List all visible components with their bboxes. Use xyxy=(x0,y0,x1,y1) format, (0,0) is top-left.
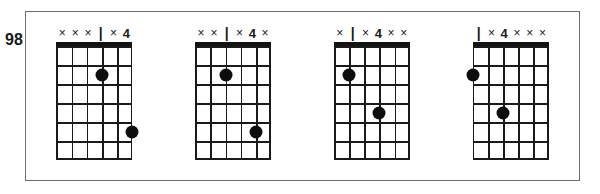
chord-4-marker-1-bar: | xyxy=(473,27,485,40)
chord-3-marker-4-finger: 4 xyxy=(372,27,384,40)
chord-2-marker-1-mute: × xyxy=(195,27,207,40)
chord-1-fret-4 xyxy=(56,122,132,124)
chord-3-marker-1-mute: × xyxy=(334,27,346,40)
chord-2-fret-5 xyxy=(195,141,271,143)
chord-1-marker-6-finger: 4 xyxy=(120,27,132,40)
chord-3-fret-6 xyxy=(334,158,410,160)
chord-1-fret-5 xyxy=(56,141,132,143)
chord-3-fretboard xyxy=(334,42,410,160)
chord-2-grid xyxy=(195,46,271,160)
chord-2-marker-4-mute: × xyxy=(234,27,246,40)
chord-3-dot-1 xyxy=(343,68,356,81)
chord-2-marker-6-mute: × xyxy=(259,27,271,40)
chord-3-fret-0 xyxy=(334,46,410,48)
chord-3-marker-2-bar: | xyxy=(347,27,359,40)
chord-1-markers: ×××|×4 xyxy=(56,25,132,40)
chord-2-marker-5-finger: 4 xyxy=(246,27,258,40)
chord-2-dot-1 xyxy=(219,68,232,81)
chord-2: ××|×4× xyxy=(190,25,276,160)
chord-3-fret-4 xyxy=(334,122,410,124)
chord-4-fret-5 xyxy=(473,141,549,143)
chord-3-grid xyxy=(334,46,410,160)
chord-2-fret-1 xyxy=(195,65,271,67)
chord-1-marker-2-mute: × xyxy=(69,27,81,40)
chord-3-dot-2 xyxy=(373,106,386,119)
chord-3-fret-3 xyxy=(334,103,410,105)
chord-3-marker-3-mute: × xyxy=(359,27,371,40)
chord-2-markers: ××|×4× xyxy=(195,25,271,40)
chord-4: |×4××× xyxy=(468,25,554,160)
chord-diagram-row: ×××|×4××|×4××|×4××|×4××× xyxy=(25,11,580,181)
chord-4-marker-2-mute: × xyxy=(485,27,497,40)
chord-3-fret-2 xyxy=(334,84,410,86)
chord-1-fret-6 xyxy=(56,158,132,160)
chord-3-marker-5-mute: × xyxy=(385,27,397,40)
chord-1-fret-0 xyxy=(56,46,132,48)
chord-2-marker-3-bar: | xyxy=(221,27,233,40)
chord-4-marker-4-mute: × xyxy=(511,27,523,40)
chord-1-marker-1-mute: × xyxy=(56,27,68,40)
chord-1-dot-2 xyxy=(126,125,139,138)
chord-1-dot-1 xyxy=(95,68,108,81)
chord-1-grid xyxy=(56,46,132,160)
chord-4-fret-4 xyxy=(473,122,549,124)
chord-3-fret-5 xyxy=(334,141,410,143)
chord-1-marker-3-mute: × xyxy=(82,27,94,40)
chord-1-marker-4-bar: | xyxy=(95,27,107,40)
chord-3: ×|×4×× xyxy=(329,25,415,160)
chord-1-fret-2 xyxy=(56,84,132,86)
chord-4-fret-0 xyxy=(473,46,549,48)
chord-2-fret-2 xyxy=(195,84,271,86)
chord-2-fret-4 xyxy=(195,122,271,124)
chord-1-marker-5-mute: × xyxy=(108,27,120,40)
chord-1-fretboard xyxy=(56,42,132,160)
chord-4-fret-6 xyxy=(473,158,549,160)
chord-2-marker-2-mute: × xyxy=(208,27,220,40)
chord-4-fret-1 xyxy=(473,65,549,67)
measure-number: 98 xyxy=(5,32,23,48)
chord-4-dot-2 xyxy=(497,106,510,119)
chord-1: ×××|×4 xyxy=(51,25,137,160)
chord-2-fret-3 xyxy=(195,103,271,105)
chord-4-fret-3 xyxy=(473,103,549,105)
chord-3-markers: ×|×4×× xyxy=(334,25,410,40)
chord-4-marker-3-finger: 4 xyxy=(498,27,510,40)
chord-2-fret-6 xyxy=(195,158,271,160)
chord-chart-sheet: 98 ×××|×4××|×4××|×4××|×4××× xyxy=(0,0,600,194)
chord-4-fretboard xyxy=(473,42,549,160)
chord-4-marker-6-mute: × xyxy=(537,27,549,40)
chord-4-markers: |×4××× xyxy=(473,25,549,40)
chord-2-fretboard xyxy=(195,42,271,160)
chord-3-marker-6-mute: × xyxy=(398,27,410,40)
chord-2-fret-0 xyxy=(195,46,271,48)
chord-4-grid xyxy=(473,46,549,160)
chord-4-marker-5-mute: × xyxy=(524,27,536,40)
chord-1-fret-1 xyxy=(56,65,132,67)
chord-4-fret-2 xyxy=(473,84,549,86)
chord-2-dot-2 xyxy=(249,125,262,138)
chord-4-dot-1 xyxy=(466,68,479,81)
chord-3-fret-1 xyxy=(334,65,410,67)
chord-1-fret-3 xyxy=(56,103,132,105)
